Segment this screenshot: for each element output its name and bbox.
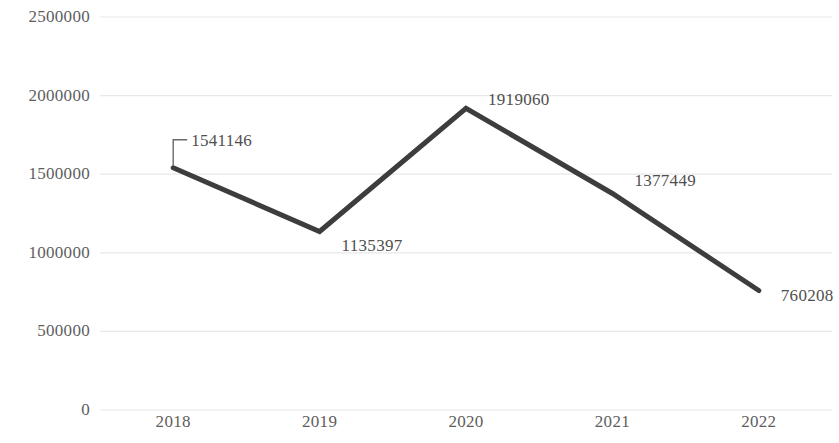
x-axis-tick-label: 2020 bbox=[426, 412, 506, 432]
x-axis-tick-label: 2018 bbox=[133, 412, 213, 432]
leader-line-2018 bbox=[173, 140, 187, 166]
line-chart: 25000002000000150000010000005000000 2018… bbox=[0, 0, 839, 443]
y-axis-tick: 1000000 bbox=[0, 243, 90, 263]
y-axis-tick-labels: 25000002000000150000010000005000000 bbox=[0, 0, 90, 443]
data-point-label-2022: 760208 bbox=[781, 286, 834, 306]
y-axis-tick-label: 500000 bbox=[37, 321, 90, 341]
y-axis-tick: 500000 bbox=[0, 321, 90, 341]
x-axis-tick-label: 2021 bbox=[572, 412, 652, 432]
y-axis-tick-label: 2000000 bbox=[28, 86, 90, 106]
y-axis-tick-label: 2500000 bbox=[28, 7, 90, 27]
x-axis-tick-label: 2019 bbox=[280, 412, 360, 432]
label-leader-line bbox=[173, 140, 187, 166]
gridlines bbox=[100, 17, 832, 410]
data-point-label-2019: 1135397 bbox=[342, 236, 403, 256]
y-axis-tick: 0 bbox=[0, 400, 90, 420]
y-axis-tick: 2000000 bbox=[0, 86, 90, 106]
data-point-label-2018: 1541146 bbox=[191, 131, 252, 151]
y-axis-tick-label: 1500000 bbox=[28, 164, 90, 184]
x-axis-tick-label: 2022 bbox=[719, 412, 799, 432]
data-point-label-2021: 1377449 bbox=[634, 171, 696, 191]
series-polyline bbox=[173, 108, 759, 290]
chart-plot-area bbox=[0, 0, 839, 443]
data-series-line bbox=[173, 108, 759, 290]
y-axis-tick-label: 0 bbox=[81, 400, 90, 420]
y-axis-tick: 1500000 bbox=[0, 164, 90, 184]
y-axis-tick-label: 1000000 bbox=[28, 243, 90, 263]
y-axis-tick: 2500000 bbox=[0, 7, 90, 27]
data-point-label-2020: 1919060 bbox=[488, 90, 550, 110]
